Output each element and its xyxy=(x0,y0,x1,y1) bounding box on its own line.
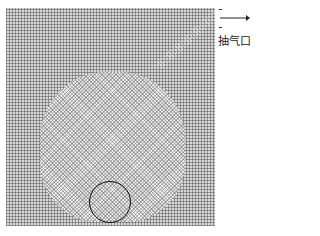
outlet-tick-bottom xyxy=(219,27,222,28)
outlet-tick-top xyxy=(219,9,222,10)
circular-boundary xyxy=(89,181,131,223)
outlet-label: 抽气口 xyxy=(218,32,250,48)
right-arrow-icon xyxy=(220,12,250,24)
